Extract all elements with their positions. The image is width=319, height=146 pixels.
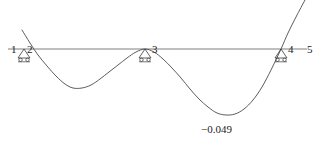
node-label-4: 4 bbox=[288, 44, 294, 55]
node-label-1: 1 bbox=[11, 44, 17, 55]
roller-circle-icon bbox=[283, 58, 286, 61]
support-triangle-icon bbox=[275, 49, 287, 58]
node-label-3: 3 bbox=[152, 44, 158, 55]
support-right bbox=[275, 49, 287, 62]
beam-deflection-figure bbox=[0, 0, 319, 146]
roller-circle-icon bbox=[147, 58, 150, 61]
roller-circle-icon bbox=[26, 58, 29, 61]
deflection-curve bbox=[22, 0, 305, 115]
roller-circle-icon bbox=[19, 58, 22, 61]
deflection-curve-group bbox=[22, 0, 305, 115]
min-deflection-label: −0.049 bbox=[201, 124, 232, 135]
node-label-2: 2 bbox=[27, 44, 33, 55]
roller-circle-icon bbox=[140, 58, 143, 61]
support-middle bbox=[139, 49, 151, 62]
node-label-5: 5 bbox=[307, 44, 313, 55]
